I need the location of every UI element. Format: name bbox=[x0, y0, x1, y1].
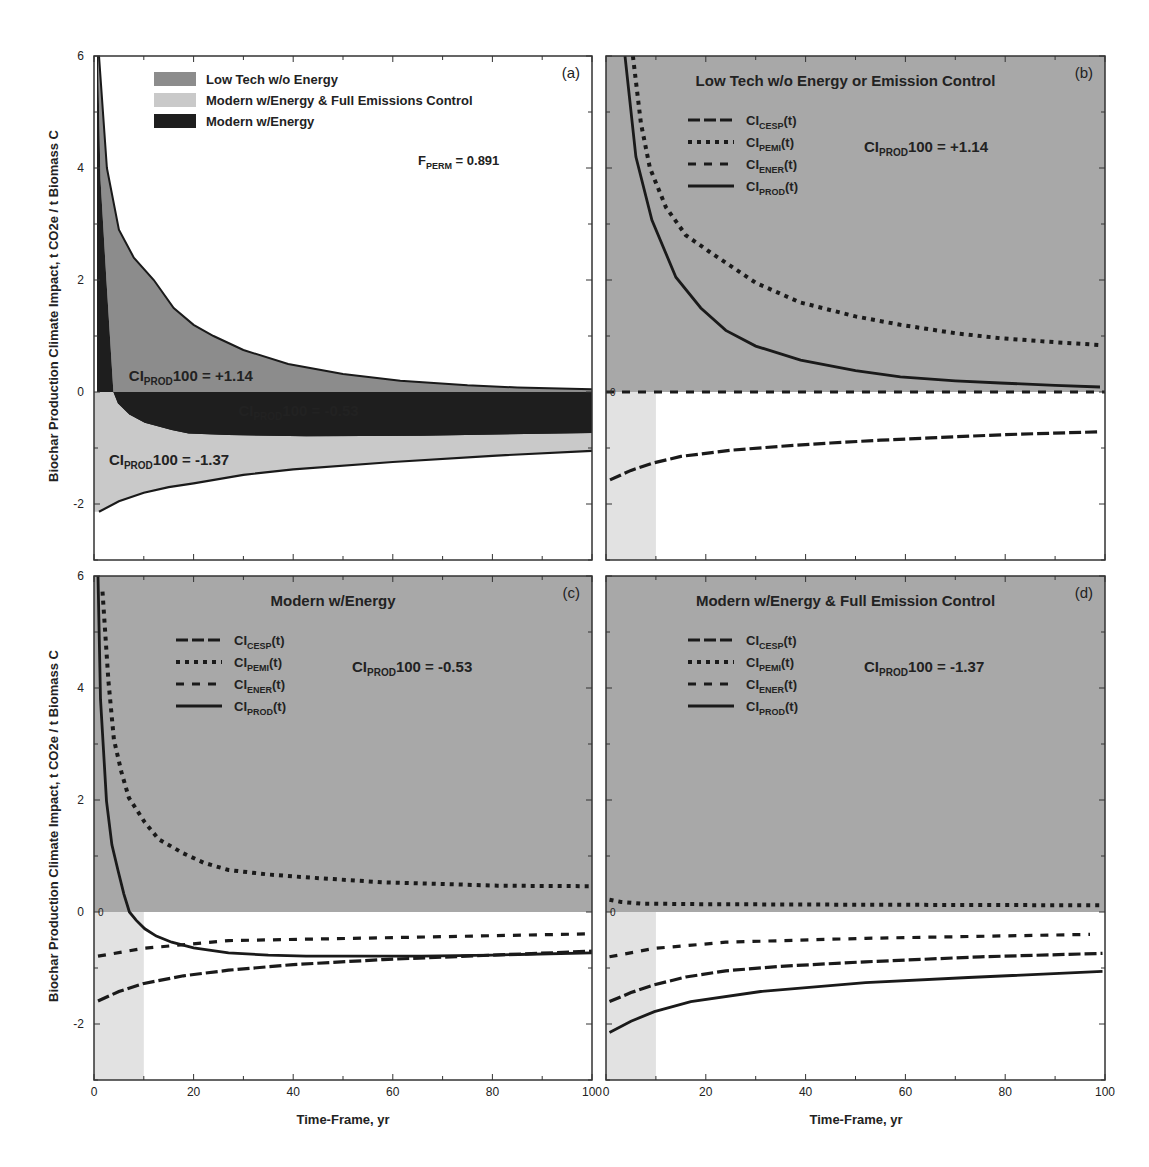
x-tick-label: 0 bbox=[603, 1085, 610, 1099]
figure: Biochar Production Climate Impact, t CO2… bbox=[0, 0, 1149, 1167]
fperm-annotation-sub: PERM bbox=[426, 161, 452, 171]
region-label-sub: PROD bbox=[144, 376, 173, 387]
ciprod100-annotation-rest: 100 = +1.14 bbox=[908, 138, 989, 155]
panel-label: (d) bbox=[1075, 584, 1093, 601]
legend-label-sub: PROD bbox=[247, 707, 274, 717]
x-tick-label: 20 bbox=[187, 1085, 201, 1099]
ciprod100-annotation-main: CI bbox=[864, 138, 879, 155]
region-label-rest: 100 = -1.37 bbox=[153, 451, 229, 468]
legend-label-rest: (t) bbox=[784, 113, 797, 128]
region-label-rest: 100 = -0.53 bbox=[282, 402, 358, 419]
legend-label: Modern w/Energy & Full Emissions Control bbox=[206, 93, 473, 108]
region-label-sub: PROD bbox=[253, 411, 282, 422]
legend-label: Low Tech w/o Energy bbox=[206, 72, 339, 87]
legend-label-rest: (t) bbox=[269, 655, 282, 670]
fperm-annotation-main: F bbox=[418, 153, 426, 168]
x-tick-label: 80 bbox=[486, 1085, 500, 1099]
legend-label-main: CI bbox=[746, 699, 759, 714]
panel-c: 0Modern w/EnergyCICESP(t)CIPEMI(t)CIENER… bbox=[73, 569, 602, 1099]
positive-region-bg bbox=[606, 56, 1105, 392]
x-tick-label: 60 bbox=[899, 1085, 913, 1099]
x-axis-label-left: Time-Frame, yr bbox=[297, 1112, 390, 1127]
legend-label-sub: CESP bbox=[759, 121, 784, 131]
shaded-0-10yr bbox=[94, 912, 144, 1080]
legend-label-rest: (t) bbox=[784, 633, 797, 648]
panel-label: (b) bbox=[1075, 64, 1093, 81]
legend-label-sub: PROD bbox=[759, 187, 786, 197]
legend-label-rest: (t) bbox=[273, 699, 286, 714]
x-tick-label: 80 bbox=[999, 1085, 1013, 1099]
ciprod100-annotation-rest: 100 = -1.37 bbox=[908, 658, 984, 675]
ciprod100-annotation-sub: PROD bbox=[879, 147, 908, 158]
panel-a: Low Tech w/o EnergyModern w/Energy & Ful… bbox=[73, 49, 592, 560]
fperm-annotation-rest: = 0.891 bbox=[452, 153, 499, 168]
panels: Low Tech w/o EnergyModern w/Energy & Ful… bbox=[73, 49, 1115, 1099]
legend-label-rest: (t) bbox=[272, 677, 285, 692]
ciprod100-annotation-main: CI bbox=[864, 658, 879, 675]
y-tick-label: -2 bbox=[73, 497, 84, 511]
legend-label-sub: CESP bbox=[247, 641, 272, 651]
legend-swatch bbox=[154, 72, 196, 86]
y-tick-label: 6 bbox=[77, 49, 84, 63]
panel-title: Low Tech w/o Energy or Emission Control bbox=[696, 72, 996, 89]
x-tick-label: 0 bbox=[91, 1085, 98, 1099]
legend-label-sub: ENER bbox=[759, 165, 785, 175]
legend-label-sub: CESP bbox=[759, 641, 784, 651]
legend-label-main: CI bbox=[746, 655, 759, 670]
region-label-main: CI bbox=[129, 367, 144, 384]
legend-label-main: CI bbox=[746, 135, 759, 150]
legend-swatch bbox=[154, 93, 196, 107]
x-tick-label: 60 bbox=[386, 1085, 400, 1099]
legend-label: Modern w/Energy bbox=[206, 114, 315, 129]
panel-title: Modern w/Energy bbox=[270, 592, 396, 609]
y-tick-label: 2 bbox=[77, 793, 84, 807]
positive-region-bg bbox=[606, 576, 1105, 912]
region-label-main: CI bbox=[238, 402, 253, 419]
x-tick-label: 20 bbox=[699, 1085, 713, 1099]
legend-swatch bbox=[154, 114, 196, 128]
panel-title: Modern w/Energy & Full Emission Control bbox=[696, 592, 995, 609]
legend-label-main: CI bbox=[746, 633, 759, 648]
legend-label-sub: ENER bbox=[759, 685, 785, 695]
legend-label-main: CI bbox=[234, 677, 247, 692]
legend-label-sub: ENER bbox=[247, 685, 273, 695]
legend-label-sub: PEMI bbox=[247, 663, 269, 673]
x-axis-label-right: Time-Frame, yr bbox=[810, 1112, 903, 1127]
legend-label-rest: (t) bbox=[781, 135, 794, 150]
panel-b: 0Low Tech w/o Energy or Emission Control… bbox=[606, 56, 1105, 560]
panel-label: (a) bbox=[562, 64, 580, 81]
x-tick-label: 100 bbox=[582, 1085, 602, 1099]
panel-label: (c) bbox=[563, 584, 581, 601]
y-axis-label-bottom: Biochar Production Climate Impact, t CO2… bbox=[46, 649, 61, 1001]
ciprod100-annotation-main: CI bbox=[352, 658, 367, 675]
legend-label-main: CI bbox=[234, 633, 247, 648]
legend-label-main: CI bbox=[746, 179, 759, 194]
legend-label-rest: (t) bbox=[272, 633, 285, 648]
y-tick-label: 0 bbox=[77, 385, 84, 399]
x-tick-label: 40 bbox=[287, 1085, 301, 1099]
plot-area bbox=[606, 56, 1105, 560]
y-axis-label-top: Biochar Production Climate Impact, t CO2… bbox=[46, 129, 61, 481]
y-tick-label: 4 bbox=[77, 161, 84, 175]
ciprod100-annotation-sub: PROD bbox=[367, 667, 396, 678]
region-label-main: CI bbox=[109, 451, 124, 468]
ciprod100-annotation-sub: PROD bbox=[879, 667, 908, 678]
legend-label-sub: PEMI bbox=[759, 663, 781, 673]
legend-label-main: CI bbox=[234, 655, 247, 670]
legend-label-main: CI bbox=[746, 677, 759, 692]
region-label-rest: 100 = +1.14 bbox=[173, 367, 254, 384]
region-label-sub: PROD bbox=[124, 460, 153, 471]
shaded-0-10yr bbox=[606, 392, 656, 560]
legend-label-main: CI bbox=[746, 157, 759, 172]
positive-region-bg bbox=[94, 576, 592, 912]
x-tick-label: 100 bbox=[1095, 1085, 1115, 1099]
legend-label-rest: (t) bbox=[781, 655, 794, 670]
plot-area bbox=[94, 56, 592, 560]
y-tick-label: 0 bbox=[77, 905, 84, 919]
ciprod100-annotation-rest: 100 = -0.53 bbox=[396, 658, 472, 675]
x-tick-label: 40 bbox=[799, 1085, 813, 1099]
y-tick-label: 6 bbox=[77, 569, 84, 583]
legend-label-rest: (t) bbox=[784, 677, 797, 692]
legend-label-sub: PEMI bbox=[759, 143, 781, 153]
panel-d: 0Modern w/Energy & Full Emission Control… bbox=[603, 576, 1116, 1099]
